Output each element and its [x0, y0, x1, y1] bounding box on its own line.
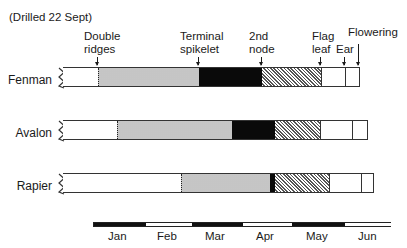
phase-2nd-node — [262, 68, 321, 86]
variety-label-rapier: Rapier — [2, 179, 52, 193]
arrow-down-icon — [358, 44, 359, 65]
month-label-jun: Jun — [358, 230, 377, 242]
month-segment-mar — [192, 223, 243, 226]
month-label-jan: Jan — [108, 230, 127, 242]
fenman-bar — [63, 67, 360, 87]
phase-vegetative — [63, 121, 117, 139]
phase-terminal-spikelet — [232, 121, 275, 139]
phase-double-ridges — [117, 121, 232, 139]
phase-vegetative — [63, 68, 98, 86]
phase-2nd-node — [275, 174, 329, 192]
month-timeline-bar — [93, 222, 391, 227]
month-segment-feb — [146, 223, 192, 226]
arrow-down-icon — [344, 57, 345, 65]
month-segment-jun — [345, 223, 392, 226]
phase-flag-leaf — [329, 174, 361, 192]
variety-label-fenman: Fenman — [2, 73, 52, 87]
month-label-mar: Mar — [205, 230, 225, 242]
arrow-down-icon — [320, 57, 321, 65]
arrow-down-icon — [97, 57, 98, 65]
phase-double-ridges — [181, 174, 270, 192]
month-label-may: May — [306, 230, 328, 242]
phase-flag-leaf — [320, 121, 352, 139]
month-label-feb: Feb — [157, 230, 177, 242]
bar-end — [373, 173, 374, 193]
avalon-bar — [63, 120, 368, 140]
arrow-down-icon — [261, 57, 262, 65]
stage-label-flag-leaf: Flag leaf — [312, 30, 334, 56]
month-segment-jan — [94, 223, 146, 226]
variety-label-avalon: Avalon — [2, 126, 52, 140]
drilled-note: (Drilled 22 Sept) — [9, 11, 92, 24]
arrow-down-icon — [198, 57, 199, 65]
stage-label-double-ridges: Double ridges — [84, 30, 120, 56]
phase-flag-leaf — [321, 68, 345, 86]
stage-label-2nd-node: 2nd node — [249, 30, 275, 56]
phase-double-ridges — [98, 68, 199, 86]
month-segment-may — [292, 223, 345, 226]
rapier-bar — [63, 173, 374, 193]
month-label-apr: Apr — [256, 230, 274, 242]
month-segment-apr — [243, 223, 292, 226]
bar-end — [367, 120, 368, 140]
phase-ear — [345, 68, 360, 86]
phase-terminal-spikelet — [199, 68, 262, 86]
bar-end — [359, 67, 360, 87]
stage-label-ear: Ear — [336, 43, 354, 56]
stage-label-terminal-spikelet: Terminal spikelet — [180, 30, 223, 56]
phase-2nd-node — [275, 121, 320, 139]
phase-vegetative — [63, 174, 181, 192]
phase-ear — [352, 121, 368, 139]
stage-label-flowering: Flowering — [348, 26, 398, 39]
